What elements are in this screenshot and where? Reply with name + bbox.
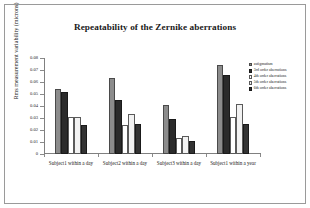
bar [81,125,87,154]
x-axis-tick-label: Subject1 within a year [206,160,260,166]
y-axis-tick-label: 0.07 [0,68,38,73]
y-axis-tick-label: 0.02 [0,128,38,133]
y-axis-tick-label: 0 [0,152,38,157]
y-axis-tick-label: 0.04 [0,104,38,109]
x-axis-tick [98,154,99,157]
x-axis-tick [152,154,153,157]
bar [189,141,195,154]
x-axis-tick [260,154,261,157]
chart-legend: astigmatism3rd order aberrations4th orde… [249,62,307,92]
legend-swatch-icon [249,81,252,84]
legend-item: 3rd order aberrations [249,68,307,74]
x-axis-tick-label: Subject2 within a day [98,160,152,166]
bar-group [44,58,98,154]
plot-area [44,58,260,154]
legend-swatch-icon [249,63,252,66]
y-axis-tick-label: 0.08 [0,56,38,61]
x-axis-tick [44,154,45,157]
legend-item: 5th order aberrations [249,80,307,86]
y-axis-tick-label: 0.06 [0,80,38,85]
bar [135,124,141,154]
y-axis-tick-label: 0.05 [0,92,38,97]
legend-item: 6th order aberrations [249,86,307,92]
y-axis-tick-label: 0.01 [0,140,38,145]
bar [243,124,249,154]
legend-swatch-icon [249,69,252,72]
legend-swatch-icon [249,87,252,90]
bar-group [98,58,152,154]
legend-swatch-icon [249,75,252,78]
legend-item: astigmatism [249,62,307,68]
legend-item-label: 6th order aberrations [254,87,286,91]
legend-item-label: 4th order aberrations [254,75,286,79]
y-axis-tick-label: 0.03 [0,116,38,121]
legend-item-label: 5th order aberrations [254,81,286,85]
bar-group [152,58,206,154]
legend-item: 4th order aberrations [249,74,307,80]
legend-item-label: astigmatism [254,63,273,67]
chart-figure: Repeatability of the Zernike aberrations… [0,0,310,208]
x-axis-tick-label: Subject1 within a day [44,160,98,166]
x-axis-tick-label: Subject3 within a day [152,160,206,166]
x-axis-tick [206,154,207,157]
page-title: Repeatability of the Zernike aberrations [0,22,310,32]
legend-item-label: 3rd order aberrations [254,69,287,73]
